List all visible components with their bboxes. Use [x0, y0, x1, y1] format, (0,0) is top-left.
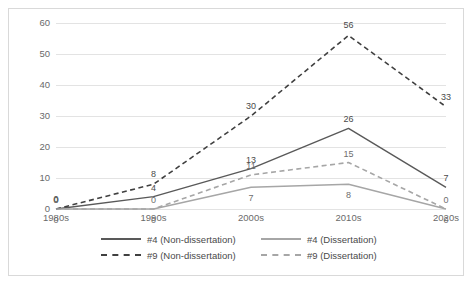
chart-legend: #4 (Non-dissertation) #4 (Dissertation) … [101, 231, 401, 263]
x-tick-label: 2020s [433, 212, 459, 224]
legend-label: #4 (Dissertation) [307, 234, 377, 245]
data-label: 0 [151, 196, 156, 205]
y-tick-label: 40 [16, 80, 50, 90]
legend-line-swatch-icon [101, 238, 141, 240]
data-label: 33 [441, 92, 451, 101]
data-label: 56 [343, 21, 353, 30]
data-label: 15 [343, 149, 353, 158]
legend-item-4-non-dissertation[interactable]: #4 (Non-dissertation) [101, 234, 261, 245]
chart-container: 0102030405060 04132670078008305633001115… [8, 8, 464, 276]
y-tick-label: 20 [16, 142, 50, 152]
data-label: 0 [443, 196, 448, 205]
legend-item-4-dissertation[interactable]: #4 (Dissertation) [261, 234, 377, 245]
data-label: 7 [443, 174, 448, 183]
legend-item-9-non-dissertation[interactable]: #9 (Non-dissertation) [101, 250, 261, 261]
legend-line-swatch-icon [261, 254, 301, 256]
data-label: 30 [246, 102, 256, 111]
data-label: 11 [246, 161, 255, 170]
y-axis: 0102030405060 [14, 23, 50, 209]
legend-row-2: #9 (Non-dissertation) #9 (Dissertation) [101, 247, 401, 263]
data-label: 8 [151, 170, 156, 179]
x-axis: 1980s1990s2000s2010s2020s [56, 212, 446, 226]
x-tick-label: 1980s [43, 212, 69, 224]
legend-line-swatch-icon [261, 238, 301, 240]
data-label: 0 [53, 196, 58, 205]
y-tick-label: 10 [16, 173, 50, 183]
legend-label: #4 (Non-dissertation) [147, 234, 236, 245]
y-tick-label: 30 [16, 111, 50, 121]
legend-label: #9 (Non-dissertation) [147, 250, 236, 261]
legend-line-swatch-icon [101, 254, 141, 256]
data-label: 8 [346, 191, 351, 200]
y-tick-label: 50 [16, 49, 50, 59]
x-tick-label: 2000s [238, 212, 264, 224]
legend-row-1: #4 (Non-dissertation) #4 (Dissertation) [101, 231, 401, 247]
data-label: 4 [151, 183, 156, 192]
x-tick-label: 2010s [336, 212, 362, 224]
data-label: 26 [343, 115, 353, 124]
series-lines [56, 23, 446, 209]
legend-item-9-dissertation[interactable]: #9 (Dissertation) [261, 250, 377, 261]
x-tick-label: 1990s [141, 212, 167, 224]
series-line-2 [56, 35, 446, 209]
legend-label: #9 (Dissertation) [307, 250, 377, 261]
plot-area: 041326700780083056330011150 [56, 23, 446, 209]
data-label: 7 [248, 194, 253, 203]
y-tick-label: 60 [16, 18, 50, 28]
